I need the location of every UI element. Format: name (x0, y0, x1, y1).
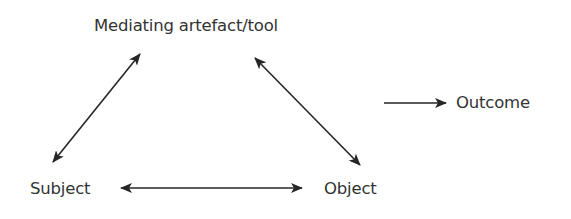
activity-theory-diagram: Mediating artefact/tool Subject Object O… (0, 0, 571, 219)
subject-tool-arrow (53, 54, 140, 162)
outcome-label: Outcome (456, 95, 530, 112)
object-label: Object (324, 181, 377, 198)
subject-label: Subject (30, 181, 90, 198)
tool-object-arrow (255, 58, 360, 165)
tool-label: Mediating artefact/tool (94, 18, 278, 35)
